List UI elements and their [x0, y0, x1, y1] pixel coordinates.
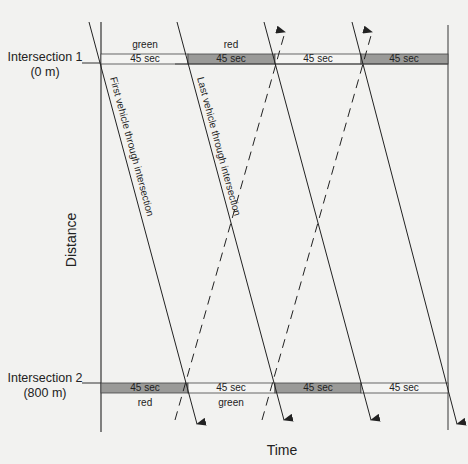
int2-phase-label-green: green: [218, 397, 244, 408]
int1-seg-1: 45 sec: [130, 53, 159, 64]
first-vehicle-annotation: First vehicle through intersection: [108, 76, 156, 218]
int1-seg-2: 45 sec: [216, 53, 245, 64]
int1-seg-4: 45 sec: [389, 53, 418, 64]
intersection-1-name: Intersection 1: [6, 50, 84, 65]
int2-phase-label-red: red: [138, 397, 152, 408]
trajectory-last-vehicle: [177, 22, 284, 420]
intersection-2-label: Intersection 2 (800 m): [6, 371, 84, 401]
last-vehicle-annotation: Last vehicle through intersection: [195, 76, 243, 217]
intersection-2-position: (800 m): [6, 386, 84, 401]
trajectory-first-vehicle: [89, 22, 197, 424]
int1-phase-label-green: green: [132, 39, 158, 50]
y-axis-label: Distance: [63, 213, 79, 268]
int1-phase-label-red: red: [224, 39, 238, 50]
int1-seg-3: 45 sec: [303, 53, 332, 64]
downward-trajectories: [89, 22, 457, 424]
intersection-1-position: (0 m): [6, 65, 84, 80]
int2-seg-1: 45 sec: [130, 382, 159, 393]
int2-seg-2: 45 sec: [216, 382, 245, 393]
trajectory-3: [264, 22, 371, 420]
intersection-2-name: Intersection 2: [6, 371, 84, 386]
trajectory-4: [352, 22, 457, 424]
int2-seg-3: 45 sec: [303, 382, 332, 393]
intersection-1-label: Intersection 1 (0 m): [6, 50, 84, 80]
int2-seg-4: 45 sec: [389, 382, 418, 393]
x-axis-label: Time: [267, 442, 298, 458]
